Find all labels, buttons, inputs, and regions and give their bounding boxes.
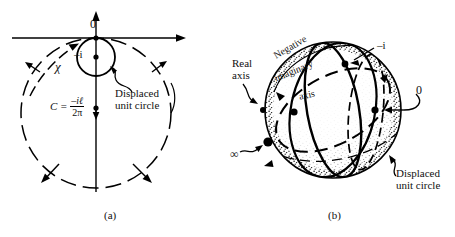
zero-label-b: 0: [416, 84, 422, 97]
infinity-label-b: ∞: [230, 148, 239, 161]
origin-label-a: 0: [90, 18, 96, 31]
negative-imaginary-axis-word2: imaginary: [273, 59, 315, 84]
real-axis-label: Real axis: [232, 58, 252, 81]
chi-label: χ: [55, 60, 61, 74]
figure-root: 0 –i χ C = –iℓ 2π Displaced unit circle …: [0, 0, 455, 237]
negative-imaginary-axis-label: Negative imaginary axis: [272, 48, 382, 112]
infinity-leader-arrowhead: [255, 145, 263, 152]
displaced-annotation-line1-b: Displaced: [396, 168, 440, 180]
real-axis-label-line1: Real: [232, 58, 252, 70]
panel-a-diagram: [0, 0, 228, 237]
origin-point-marker: [93, 35, 98, 40]
real-axis-arrowhead: [176, 34, 186, 41]
displaced-annotation-line1-a: Displaced: [115, 88, 159, 100]
displaced-unit-circle-annotation-b: Displaced unit circle: [396, 168, 440, 191]
c-formula-lhs: C =: [50, 100, 68, 112]
real-axis-label-line2: axis: [232, 70, 252, 82]
displaced-annotation-line2-a: unit circle: [115, 100, 159, 112]
minus-i-label-a: –i: [74, 49, 83, 61]
negative-imaginary-axis-word3: axis: [298, 89, 316, 103]
panel-b-caption: (b): [328, 210, 341, 222]
minus-i-point-marker: [93, 54, 98, 59]
real-axis-point-marker-b: [260, 107, 266, 113]
c-value-point-marker: [93, 105, 98, 110]
flow-arrow-upper-left: [25, 62, 40, 72]
c-formula-denominator: 2π: [70, 107, 84, 119]
infinity-point-marker-b: [263, 137, 272, 146]
flow-arrowhead-lower-left-b: [264, 160, 274, 167]
c-formula-fraction: –iℓ 2π: [70, 95, 84, 119]
c-formula: C = –iℓ 2π: [50, 95, 84, 119]
panel-b-diagram: [228, 0, 455, 237]
panel-a-caption: (a): [104, 210, 116, 222]
c-formula-numerator: –iℓ: [70, 95, 84, 107]
minus-i-label-b: –i: [377, 40, 386, 52]
displaced-annotation-line2-b: unit circle: [396, 180, 440, 192]
c-value-arrow: [93, 110, 100, 120]
displaced-unit-circle-annotation-a: Displaced unit circle: [115, 88, 159, 111]
